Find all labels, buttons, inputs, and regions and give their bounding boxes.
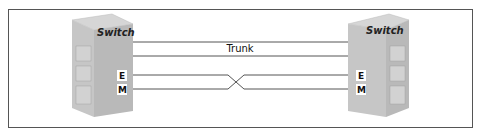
- right-switch: Switch E M: [348, 14, 409, 117]
- switch-side: [348, 24, 386, 117]
- left-switch-label: Switch: [97, 27, 135, 38]
- left-port-m: M: [118, 85, 127, 95]
- left-port-e: E: [119, 71, 125, 81]
- switch-panels: [76, 46, 91, 104]
- network-diagram: Trunk Switch E M Switch E M: [0, 0, 482, 134]
- right-port-m: M: [357, 85, 366, 95]
- trunk-label: Trunk: [225, 43, 253, 54]
- switch-panels: [390, 46, 405, 104]
- right-port-e: E: [358, 71, 364, 81]
- right-switch-label: Switch: [366, 25, 404, 36]
- left-switch: Switch E M: [72, 14, 135, 117]
